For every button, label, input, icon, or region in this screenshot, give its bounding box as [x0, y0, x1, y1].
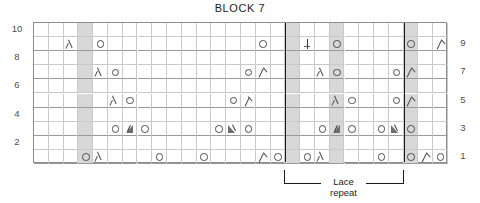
chart-cell	[182, 136, 197, 150]
chart-cell	[315, 65, 330, 79]
chart-cell	[271, 94, 286, 108]
chart-cell	[108, 122, 123, 136]
chart-cell	[49, 79, 64, 93]
yarn-over-icon	[108, 65, 122, 78]
chart-cell	[256, 122, 271, 136]
chart-cell	[433, 122, 448, 136]
chart-cell	[226, 23, 241, 37]
chart-cell	[152, 108, 167, 122]
chart-cell	[167, 23, 182, 37]
chart-cell	[78, 51, 93, 65]
chart-cell	[138, 136, 153, 150]
yarn-over-icon	[374, 122, 388, 135]
chart-cell	[433, 23, 448, 37]
chart-cell	[152, 37, 167, 51]
chart-cell	[78, 136, 93, 150]
chart-cell	[389, 37, 404, 51]
chart-cell	[34, 122, 49, 136]
chart-cell	[93, 108, 108, 122]
row-label-right-1: 1	[452, 150, 474, 161]
right-leaning-decrease-icon	[315, 150, 329, 163]
chart-cell	[315, 51, 330, 65]
chart-cell	[138, 108, 153, 122]
chart-cell	[433, 37, 448, 51]
chart-cell	[182, 94, 197, 108]
chart-cell	[93, 23, 108, 37]
chart-cell	[108, 79, 123, 93]
chart-cell	[138, 51, 153, 65]
chart-cell	[345, 94, 360, 108]
chart-cell	[256, 51, 271, 65]
chart-cell	[359, 94, 374, 108]
right-leaning-decrease-icon	[93, 150, 107, 163]
chart-cell	[226, 65, 241, 79]
yarn-over-icon	[315, 122, 329, 135]
chart-cell	[256, 23, 271, 37]
chart-cell	[123, 51, 138, 65]
chart-cell	[49, 108, 64, 122]
chart-cell	[182, 150, 197, 164]
chart-cell	[285, 79, 300, 93]
chart-cell	[271, 51, 286, 65]
chart-cell	[345, 150, 360, 164]
chart-cell	[78, 23, 93, 37]
row-label-right-7: 7	[452, 65, 474, 76]
yarn-over-icon	[197, 150, 211, 163]
chart-cell	[49, 65, 64, 79]
chart-cell	[300, 108, 315, 122]
chart-cell	[256, 37, 271, 51]
chart-cell	[241, 51, 256, 65]
chart-cell	[138, 37, 153, 51]
yarn-over-icon	[374, 150, 388, 163]
chart-cell	[108, 94, 123, 108]
chart-cell	[359, 150, 374, 164]
left-leaning-decrease-icon	[241, 94, 255, 107]
chart-cell	[300, 122, 315, 136]
chart-cell	[78, 108, 93, 122]
yarn-over-icon	[152, 150, 166, 163]
chart-cell	[64, 94, 79, 108]
chart-cell	[34, 94, 49, 108]
yarn-over-icon	[345, 122, 359, 135]
row-label-left-4: 4	[6, 108, 28, 119]
chart-cell	[418, 23, 433, 37]
chart-cell	[138, 94, 153, 108]
chart-cell	[345, 79, 360, 93]
chart-cell	[211, 37, 226, 51]
chart-cell	[241, 108, 256, 122]
chart-cell	[108, 65, 123, 79]
chart-cell	[108, 23, 123, 37]
chart-cell	[285, 94, 300, 108]
chart-cell	[374, 65, 389, 79]
yarn-over-icon	[138, 122, 152, 135]
chart-cell	[197, 51, 212, 65]
chart-cell	[226, 94, 241, 108]
chart-cell	[433, 65, 448, 79]
chart-cell	[64, 136, 79, 150]
chart-cell	[271, 108, 286, 122]
chart-cell	[78, 79, 93, 93]
chart-cell	[78, 65, 93, 79]
chart-cell	[226, 122, 241, 136]
chart-cell	[404, 79, 419, 93]
row-label-right-3: 3	[452, 122, 474, 133]
chart-cell	[197, 65, 212, 79]
chart-cell	[49, 136, 64, 150]
chart-cell	[34, 65, 49, 79]
chart-cell	[241, 23, 256, 37]
chart-cell	[300, 65, 315, 79]
chart-cell	[271, 23, 286, 37]
chart-cell	[167, 122, 182, 136]
chart-cell	[359, 51, 374, 65]
chart-cell	[182, 37, 197, 51]
chart-cell	[315, 23, 330, 37]
right-leaning-decrease-icon	[108, 94, 122, 107]
chart-cell	[108, 37, 123, 51]
chart-cell	[49, 94, 64, 108]
chart-cell	[359, 79, 374, 93]
chart-cell	[330, 122, 345, 136]
chart-cell	[389, 51, 404, 65]
yarn-over-icon	[404, 150, 418, 163]
yarn-over-icon	[78, 150, 92, 163]
chart-cell	[123, 150, 138, 164]
